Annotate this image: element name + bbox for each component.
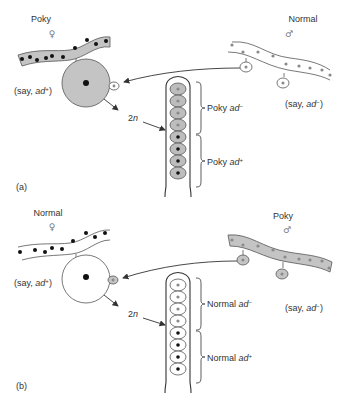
male-strain-label: Normal (288, 14, 317, 24)
hypha-nuclei (18, 231, 107, 254)
male-genotype-label: (say, ad−) (285, 303, 323, 313)
spore-group-upper-a: Poky ad− (207, 103, 244, 113)
female-strain-label: Poky (31, 14, 52, 24)
panel-tag-a: (a) (16, 182, 27, 192)
spore-group-lower-b: Normal ad+ (207, 353, 253, 363)
spore-group-upper-b: Normal ad− (207, 299, 253, 309)
male-strain-label: Poky (273, 211, 294, 221)
ploidy-label-a: 2n (128, 113, 138, 123)
female-genotype-label: (say, ad+) (14, 86, 52, 96)
female-symbol-icon: ♀ (49, 222, 56, 232)
female-genotype-label: (say, ad+) (14, 278, 52, 288)
female-nucleus (83, 274, 89, 280)
brace-upper-b (196, 278, 205, 330)
brace-upper-a (196, 82, 205, 134)
poky-inheritance-diagram: Poky ♀ (say, ad+) 2n Normal ♂ (0, 0, 341, 405)
male-symbol-icon: ♂ (285, 29, 293, 39)
ploidy-label-b: 2n (128, 309, 138, 319)
panel-b: Normal ♀ (say, ad+) 2n Poky ♂ (14, 208, 332, 393)
female-symbol-icon: ♀ (49, 29, 56, 39)
male-hypha (228, 235, 332, 272)
female-nucleus (83, 80, 89, 86)
brace-lower-a (196, 135, 205, 187)
male-genotype-label: (say, ad−) (285, 99, 323, 109)
panel-a: Poky ♀ (say, ad+) 2n Normal ♂ (14, 14, 332, 197)
spore-group-lower-a: Poky ad+ (207, 157, 244, 167)
male-symbol-icon: ♂ (283, 225, 291, 235)
panel-tag-b: (b) (16, 381, 27, 391)
brace-lower-b (196, 331, 205, 383)
female-strain-label: Normal (33, 208, 62, 218)
